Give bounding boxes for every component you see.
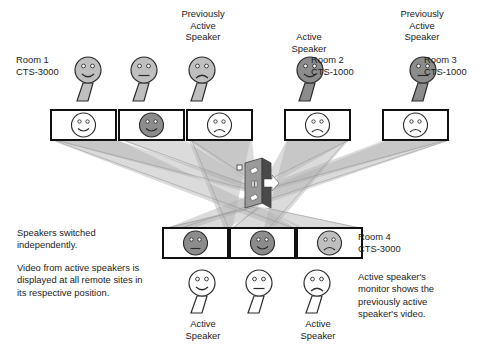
person-top-3 xyxy=(189,57,215,101)
person-bottom-3 xyxy=(304,270,330,313)
monitor-top-2 xyxy=(119,110,184,140)
switch-port-indicator xyxy=(237,165,242,170)
room-label-room1: Room 1 CTS-3000 xyxy=(16,54,59,77)
monitor-room4-2 xyxy=(230,228,295,258)
room-label-room3: Room 3 CTS-1000 xyxy=(424,54,467,77)
caption-active-bottom-left: Active Speaker xyxy=(163,318,243,341)
person-bottom-2 xyxy=(246,270,272,313)
monitor-top-3 xyxy=(187,110,252,140)
monitor-top-4 xyxy=(285,110,350,140)
caption-active-room2: Active Speaker xyxy=(269,31,349,54)
room-label-room2: Room 2 CTS-1000 xyxy=(311,54,354,77)
room-label-room4: Room 4 CTS-3000 xyxy=(358,231,401,254)
monitor-top-1 xyxy=(51,110,116,140)
person-top-2 xyxy=(131,57,157,101)
caption-active-bottom-right: Active Speaker xyxy=(278,318,358,341)
caption-prev-active-top-mid: Previously Active Speaker xyxy=(163,8,243,43)
monitor-room4-3 xyxy=(297,228,362,258)
person-room1 xyxy=(75,57,101,101)
note-speakers-switched: Speakers switched independently. xyxy=(17,227,197,252)
note-video-display: Video from active speakers is displayed … xyxy=(17,262,212,299)
caption-prev-active-room3: Previously Active Speaker xyxy=(382,8,462,43)
monitor-top-5 xyxy=(383,110,448,140)
note-active-speaker-monitor: Active speaker's monitor shows the previ… xyxy=(358,271,498,321)
